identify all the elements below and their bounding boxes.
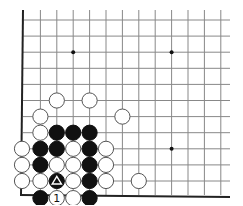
black-stone[interactable] xyxy=(82,125,97,140)
white-stone[interactable] xyxy=(82,93,97,108)
white-stone[interactable] xyxy=(14,157,29,172)
black-stone[interactable] xyxy=(82,141,97,156)
white-stone-icon xyxy=(66,157,81,172)
black-stone-icon xyxy=(66,125,81,140)
white-stone[interactable] xyxy=(131,173,146,188)
white-stone-icon xyxy=(115,109,130,124)
white-stone-icon xyxy=(82,93,97,108)
white-stone[interactable] xyxy=(115,109,130,124)
white-stone-icon xyxy=(14,173,29,188)
white-stone-icon xyxy=(33,109,48,124)
black-stone[interactable] xyxy=(33,157,48,172)
white-stone[interactable] xyxy=(66,141,81,156)
white-stone-icon xyxy=(131,173,146,188)
white-stone-icon xyxy=(33,125,48,140)
white-stone[interactable] xyxy=(66,157,81,172)
go-board: 1 xyxy=(0,0,243,205)
white-stone[interactable]: 1 xyxy=(49,191,64,206)
white-stone-icon xyxy=(14,141,29,156)
white-stone[interactable] xyxy=(66,173,81,188)
black-stone-icon xyxy=(33,141,48,156)
white-stone-icon xyxy=(66,173,81,188)
white-stone[interactable] xyxy=(33,173,48,188)
white-stone[interactable] xyxy=(49,157,64,172)
black-stone-icon xyxy=(49,141,64,156)
white-stone[interactable] xyxy=(66,191,81,206)
white-stone-icon xyxy=(66,141,81,156)
white-stone-icon xyxy=(98,173,113,188)
black-stone-icon xyxy=(82,157,97,172)
black-stone[interactable] xyxy=(82,191,97,206)
white-stone[interactable] xyxy=(98,157,113,172)
white-stone-icon xyxy=(33,173,48,188)
black-stone[interactable] xyxy=(33,141,48,156)
white-stone-icon xyxy=(98,157,113,172)
white-stone-icon xyxy=(49,93,64,108)
white-stone[interactable] xyxy=(14,141,29,156)
star-point-icon xyxy=(170,147,174,151)
black-stone[interactable] xyxy=(49,173,64,188)
black-stone-icon xyxy=(82,125,97,140)
move-number-label: 1 xyxy=(53,192,60,205)
white-stone[interactable] xyxy=(98,173,113,188)
star-point-icon xyxy=(71,50,75,54)
black-stone-icon xyxy=(82,141,97,156)
black-stone[interactable] xyxy=(82,157,97,172)
black-stone[interactable] xyxy=(49,141,64,156)
black-stone[interactable] xyxy=(82,173,97,188)
black-stone[interactable] xyxy=(66,125,81,140)
black-stone-icon xyxy=(49,125,64,140)
white-stone-icon xyxy=(66,191,81,206)
black-stone[interactable] xyxy=(49,125,64,140)
black-stone-icon xyxy=(33,157,48,172)
black-stone[interactable] xyxy=(33,191,48,206)
go-board-diagram: 1 xyxy=(0,0,243,205)
white-stone[interactable] xyxy=(98,141,113,156)
white-stone[interactable] xyxy=(33,109,48,124)
white-stone-icon xyxy=(98,141,113,156)
black-stone-icon xyxy=(82,191,97,206)
white-stone-icon xyxy=(14,157,29,172)
black-stone-icon xyxy=(82,173,97,188)
white-stone[interactable] xyxy=(49,93,64,108)
white-stone[interactable] xyxy=(14,173,29,188)
white-stone-icon xyxy=(49,157,64,172)
black-stone-icon xyxy=(33,191,48,206)
star-point-icon xyxy=(170,50,174,54)
white-stone[interactable] xyxy=(33,125,48,140)
